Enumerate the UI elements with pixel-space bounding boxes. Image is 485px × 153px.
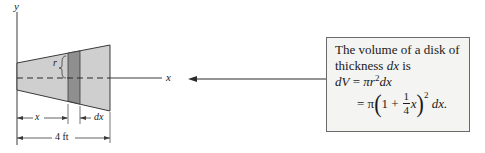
numerator: 1 <box>404 91 410 102</box>
x-dimension-label: x <box>35 112 39 122</box>
y-axis-label: y <box>14 1 19 12</box>
close-paren: ) <box>417 91 424 116</box>
dx-var: dx <box>379 74 391 89</box>
one-plus: 1 + <box>381 96 401 112</box>
callout-line-2: thickness dx is <box>335 58 463 74</box>
radius-label: r <box>53 58 57 68</box>
arrowhead-icon <box>17 116 23 120</box>
dx-var: dx <box>387 58 399 73</box>
open-paren: ( <box>374 91 381 116</box>
text: is <box>399 58 411 73</box>
length-dimension-label: 4 ft <box>55 132 69 142</box>
x-axis-label: x <box>166 72 171 83</box>
equation-1: dV = πr2dx <box>335 74 463 90</box>
equals: = <box>349 74 363 89</box>
fraction: 14 <box>403 91 410 116</box>
arrowhead-icon <box>104 136 110 140</box>
arrowhead-icon <box>62 116 68 120</box>
dx-dimension-label: dx <box>94 112 103 122</box>
arrowhead-icon <box>17 136 23 140</box>
dx-tail: dx. <box>428 96 447 112</box>
dv-var: dV <box>335 74 349 89</box>
arrowhead-icon <box>80 116 86 120</box>
equation-2: = π ( 1 + 14 x ) 2 dx. <box>357 91 463 116</box>
pointer-arrowhead-icon <box>188 76 197 82</box>
denominator: 4 <box>404 105 410 116</box>
exponent: 2 <box>424 87 429 103</box>
equals-pi: = π <box>357 96 374 112</box>
callout-box: The volume of a disk of thickness dx is … <box>326 37 470 132</box>
callout-line-1: The volume of a disk of <box>335 42 463 58</box>
text: thickness <box>335 58 387 73</box>
